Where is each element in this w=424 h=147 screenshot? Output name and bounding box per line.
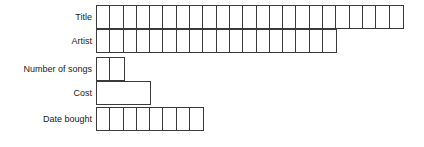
field-row-cost: Cost [0,81,151,105]
character-cell [323,6,336,28]
character-cell [137,6,150,28]
field-label-cost: Cost [0,81,96,105]
field-row-artist: Artist [0,29,337,53]
character-cell [203,30,216,52]
character-cell [336,6,349,28]
character-cell [310,30,323,52]
character-cell [270,30,283,52]
character-cell [177,108,190,130]
cell-strip-date-bought [96,107,204,131]
character-cell [150,108,163,130]
character-cell [243,6,256,28]
character-cell [150,6,163,28]
cell-strip-artist [96,29,337,53]
character-cell [97,30,110,52]
character-cell [177,30,190,52]
character-cell [110,30,123,52]
character-cell [177,6,190,28]
character-cell [190,6,203,28]
field-label-date-bought: Date bought [0,107,96,131]
field-row-title: Title [0,5,404,29]
character-cell [97,108,110,130]
character-cell [217,6,230,28]
field-label-title: Title [0,5,96,29]
cell-strip-cost [96,81,151,105]
field-label-number-of-songs: Number of songs [0,57,96,81]
character-cell [97,58,110,80]
character-cell [190,30,203,52]
field-length-diagram: Title Artist Number of songs Cost Date b… [0,0,424,147]
character-cell [124,6,137,28]
character-cell [124,108,137,130]
character-cell [270,6,283,28]
character-cell [163,6,176,28]
character-cell [310,6,323,28]
character-cell [230,30,243,52]
character-cell [97,6,110,28]
character-cell [110,58,123,80]
character-cell [350,6,363,28]
character-cell [163,108,176,130]
character-cell [124,30,137,52]
character-cell [110,108,123,130]
character-cell [190,108,203,130]
character-cell [296,30,309,52]
character-cell [257,6,270,28]
cell-strip-number-of-songs [96,57,125,81]
character-cell [376,6,389,28]
character-cell [363,6,376,28]
character-cell [97,82,150,104]
character-cell [283,30,296,52]
character-cell [243,30,256,52]
character-cell [137,108,150,130]
character-cell [203,6,216,28]
character-cell [150,30,163,52]
character-cell [257,30,270,52]
field-label-artist: Artist [0,29,96,53]
character-cell [390,6,403,28]
field-row-date-bought: Date bought [0,107,204,131]
character-cell [163,30,176,52]
field-row-number-of-songs: Number of songs [0,57,125,81]
character-cell [323,30,336,52]
character-cell [296,6,309,28]
character-cell [217,30,230,52]
character-cell [110,6,123,28]
cell-strip-title [96,5,404,29]
character-cell [137,30,150,52]
character-cell [230,6,243,28]
character-cell [283,6,296,28]
